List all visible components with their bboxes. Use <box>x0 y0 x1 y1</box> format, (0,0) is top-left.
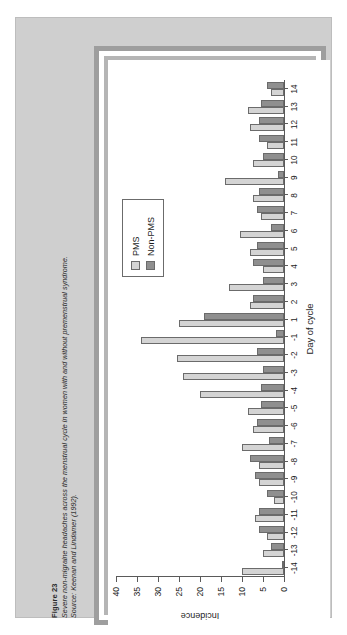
bar-pms-day-11 <box>267 142 284 149</box>
x-axis-line <box>284 80 285 577</box>
bar-pms-day-7 <box>261 213 284 220</box>
y-axis-tick-label: 35 <box>132 587 142 597</box>
x-axis-tick <box>284 141 288 142</box>
bar-pms-day--2 <box>177 355 284 362</box>
bar-pms-day--11 <box>255 515 284 522</box>
x-axis-tick-label: -12 <box>290 527 299 539</box>
x-axis-tick <box>284 248 288 249</box>
bar-non-pms-day--7 <box>269 437 284 444</box>
x-axis-tick-label: -6 <box>290 422 299 429</box>
x-axis-tick <box>284 177 288 178</box>
x-axis-tick-label: 2 <box>290 300 299 305</box>
x-axis-tick <box>284 283 288 284</box>
bar-non-pms-day-2 <box>253 295 285 302</box>
chart-plate-white-band: Incidence Day of cycle 0510152025303540 … <box>99 51 321 620</box>
x-axis-tick <box>284 354 288 355</box>
bar-pms-day--4 <box>200 391 284 398</box>
x-axis-tick <box>284 194 288 195</box>
x-axis-tick-label: 4 <box>290 264 299 269</box>
bar-pms-day-12 <box>250 124 284 131</box>
bar-non-pms-day-8 <box>259 188 284 195</box>
bar-pms-day-10 <box>253 160 285 167</box>
x-axis-tick <box>284 514 288 515</box>
bar-pms-day--13 <box>263 550 284 557</box>
x-axis-tick-label: 1 <box>290 317 299 322</box>
bar-pms-day-14 <box>271 89 284 96</box>
x-axis-tick-label: -2 <box>290 351 299 358</box>
figure-description: Severe non-migraine headaches across the… <box>60 256 69 618</box>
figure-caption-block: Figure 23 Severe non-migraine headaches … <box>36 40 82 631</box>
bar-pms-day-2 <box>250 302 284 309</box>
legend-label-pms: PMS <box>131 236 141 256</box>
bar-pms-day--6 <box>253 426 285 433</box>
bar-non-pms-day--6 <box>257 419 284 426</box>
bar-pms-day-8 <box>253 195 285 202</box>
bar-non-pms-day--2 <box>257 348 284 355</box>
bar-pms-day--3 <box>183 373 284 380</box>
y-axis-tick-label: 5 <box>258 587 268 592</box>
bar-non-pms-day--14 <box>282 561 284 568</box>
chart-rotor: Incidence Day of cycle 0510152025303540 … <box>108 60 330 629</box>
bar-pms-day-4 <box>263 266 284 273</box>
y-axis-tick-label: 25 <box>174 587 184 597</box>
x-axis-tick <box>284 461 288 462</box>
bar-non-pms-day--3 <box>263 366 284 373</box>
x-axis-tick-label: -13 <box>290 544 299 556</box>
x-axis-tick-label: 6 <box>290 229 299 234</box>
x-axis-tick <box>284 496 288 497</box>
bar-non-pms-day-10 <box>263 153 284 160</box>
bar-non-pms-day-4 <box>253 259 285 266</box>
x-axis-tick-label: -9 <box>290 476 299 483</box>
x-axis-tick <box>284 319 288 320</box>
y-axis-tick-label: 10 <box>237 587 247 597</box>
x-axis-tick-label: -10 <box>290 491 299 503</box>
bar-chart: Incidence Day of cycle 0510152025303540 … <box>108 60 330 629</box>
bar-non-pms-day-9 <box>278 171 284 178</box>
y-axis-tick <box>221 577 222 582</box>
bar-pms-day--5 <box>248 408 284 415</box>
bar-non-pms-day--9 <box>255 472 284 479</box>
y-axis-tick-label: 20 <box>195 587 205 597</box>
x-axis-tick-label: -8 <box>290 458 299 465</box>
y-axis-tick-label: 30 <box>153 587 163 597</box>
legend-swatch-non-pms <box>146 261 155 270</box>
y-axis-tick-label: 0 <box>279 587 289 592</box>
x-axis-tick <box>284 212 288 213</box>
x-axis-tick <box>284 159 288 160</box>
x-axis-tick-label: -4 <box>290 387 299 394</box>
x-axis-tick <box>284 230 288 231</box>
figure-number: Figure 23 <box>50 583 59 618</box>
y-axis-tick-label: 40 <box>111 587 121 597</box>
bar-non-pms-day--1 <box>276 330 284 337</box>
x-axis-tick-label: -11 <box>290 509 299 520</box>
y-axis-tick <box>200 577 201 582</box>
bar-non-pms-day--11 <box>259 508 284 515</box>
bar-non-pms-day-11 <box>259 135 284 142</box>
y-axis-tick-label: 15 <box>216 587 226 597</box>
bar-pms-day--9 <box>259 479 284 486</box>
x-axis-tick-label: 5 <box>290 246 299 251</box>
bar-pms-day-3 <box>229 284 284 291</box>
x-axis-tick <box>284 443 288 444</box>
x-axis-tick-label: 13 <box>290 102 299 111</box>
legend-item-non-pms: Non-PMS <box>143 206 158 270</box>
bar-pms-day-13 <box>248 107 284 114</box>
bar-non-pms-day--5 <box>261 401 284 408</box>
bar-non-pms-day-5 <box>257 242 284 249</box>
x-axis-tick <box>284 478 288 479</box>
plot-area <box>116 80 284 577</box>
y-axis-tick <box>116 577 117 582</box>
bar-non-pms-day--10 <box>267 490 284 497</box>
bar-pms-day--10 <box>274 497 285 504</box>
bar-pms-day-6 <box>240 231 284 238</box>
y-axis-tick <box>158 577 159 582</box>
figure-panel: Figure 23 Severe non-migraine headaches … <box>15 17 332 618</box>
bar-pms-day--12 <box>267 533 284 540</box>
x-axis-tick-label: 11 <box>290 138 299 147</box>
bar-pms-day--14 <box>242 568 284 575</box>
y-axis-tick <box>284 577 285 582</box>
x-axis-tick <box>284 123 288 124</box>
x-axis-tick-label: -5 <box>290 405 299 412</box>
x-axis-tick <box>284 407 288 408</box>
legend-label-non-pms: Non-PMS <box>146 217 156 256</box>
